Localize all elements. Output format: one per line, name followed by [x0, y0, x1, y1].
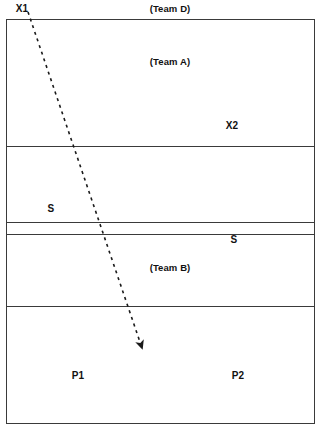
field-diagram: (Team D) X1 (Team A) X2 S S (Team B) P1 … — [0, 0, 321, 437]
field-divider-4 — [6, 306, 315, 307]
field-divider-2 — [6, 222, 315, 223]
label-team-d: (Team D) — [150, 4, 191, 14]
label-s-right: S — [231, 235, 238, 245]
label-x2: X2 — [226, 121, 238, 131]
label-team-b: (Team B) — [150, 263, 191, 273]
label-x1: X1 — [16, 4, 28, 14]
label-s-left: S — [48, 204, 55, 214]
label-team-a: (Team A) — [150, 57, 190, 67]
field-divider-3 — [6, 234, 315, 235]
label-p1: P1 — [72, 371, 84, 381]
field-divider-1 — [6, 146, 315, 147]
label-p2: P2 — [232, 371, 244, 381]
